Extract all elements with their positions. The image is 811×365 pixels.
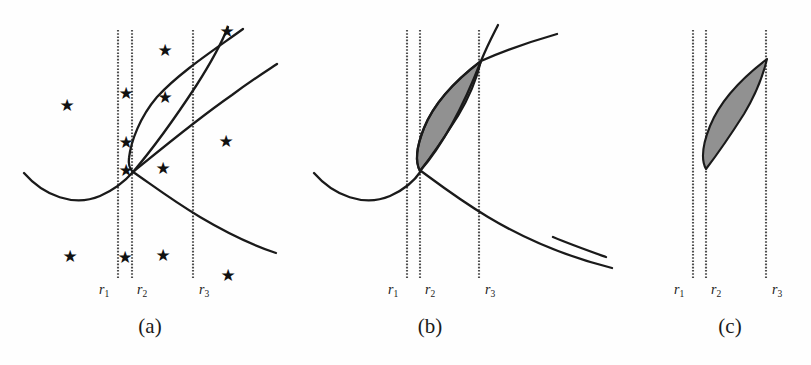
- axis-label-subscript: 1: [393, 289, 398, 299]
- axis-label-subscript: 1: [104, 289, 109, 299]
- star-marker: ★: [220, 267, 235, 284]
- axis-label-r1: r1: [674, 283, 684, 297]
- panel-c-shaded-region: [703, 59, 767, 169]
- panel-a-descending-curve: [24, 172, 276, 253]
- star-marker: ★: [118, 85, 133, 102]
- axis-label-r2: r2: [425, 283, 435, 297]
- star-marker: ★: [117, 249, 132, 266]
- panel-caption-c: (c): [700, 316, 760, 337]
- panel-b-descending-curve: [314, 171, 612, 268]
- panel-caption-a: (a): [120, 316, 180, 337]
- panel-a-graphics: [24, 27, 277, 278]
- axis-label-r3: r3: [772, 283, 782, 297]
- panel-b-graphics: [314, 25, 612, 278]
- axis-label-r3: r3: [199, 283, 209, 297]
- axis-label-subscript: 2: [430, 289, 435, 299]
- axis-label-subscript: 3: [490, 289, 495, 299]
- star-marker: ★: [59, 97, 74, 114]
- panel-c-curve-stub: [553, 237, 606, 257]
- star-marker: ★: [157, 42, 172, 59]
- axis-label-r1: r1: [99, 283, 109, 297]
- star-marker: ★: [219, 23, 234, 40]
- star-marker: ★: [155, 247, 170, 264]
- star-marker: ★: [155, 160, 170, 177]
- star-marker: ★: [62, 248, 77, 265]
- star-marker: ★: [218, 133, 233, 150]
- panel-caption-b: (b): [400, 316, 460, 337]
- star-marker: ★: [118, 134, 133, 151]
- axis-label-r3: r3: [485, 283, 495, 297]
- star-marker: ★: [157, 89, 172, 106]
- panel-b-shaded-region: [417, 61, 481, 171]
- axis-label-subscript: 2: [716, 289, 721, 299]
- axis-label-subscript: 2: [142, 289, 147, 299]
- panel-c-graphics: [553, 30, 767, 278]
- axis-label-r1: r1: [388, 283, 398, 297]
- figure-vector-canvas: [0, 0, 811, 365]
- star-marker: ★: [118, 162, 133, 179]
- axis-label-subscript: 3: [777, 289, 782, 299]
- axis-label-r2: r2: [137, 283, 147, 297]
- axis-label-subscript: 1: [679, 289, 684, 299]
- figure-container: ★★★★★★★★★★★★★ r1r2r3r1r2r3r1r2r3 (a) (b)…: [0, 0, 811, 365]
- panel-a-concave-arc: [133, 64, 277, 172]
- axis-label-r2: r2: [711, 283, 721, 297]
- axis-label-subscript: 3: [204, 289, 209, 299]
